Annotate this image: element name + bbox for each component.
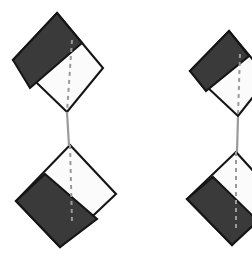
shape-group-top-left: [13, 13, 103, 112]
shape-group-bottom-right: [187, 152, 252, 245]
diagram-canvas: [0, 0, 252, 261]
left-connector-line: [67, 112, 69, 146]
shape-group-top-right: [190, 31, 252, 116]
right-connector-line: [237, 117, 238, 152]
shape-group-bottom-left: [16, 145, 116, 247]
diagram-svg: [0, 0, 252, 261]
